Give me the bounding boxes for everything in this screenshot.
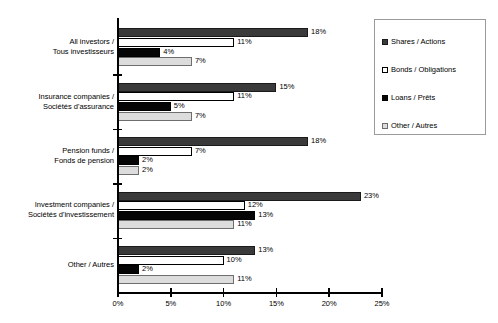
category-label-line: All investors / (53, 37, 114, 47)
bar-1-series-1 (118, 28, 308, 37)
legend-item-1[interactable]: Shares / Actions (382, 37, 445, 46)
legend-swatch-icon (382, 95, 388, 101)
x-axis-tick (381, 288, 383, 297)
x-axis-tick-label: 5% (165, 299, 176, 308)
legend-label: Loans / Prêts (391, 93, 435, 102)
bar-row: 11% (118, 92, 382, 101)
bar-value-label: 12% (248, 200, 263, 210)
bar-value-label: 18% (311, 136, 326, 146)
y-axis-tick (113, 238, 122, 240)
bar-row: 7% (118, 57, 382, 66)
bar-row: 7% (118, 147, 382, 156)
bar-2-series-4 (118, 112, 192, 121)
bar-row: 11% (118, 220, 382, 229)
bar-value-label: 2% (142, 165, 153, 175)
bar-row: 11% (118, 275, 382, 284)
x-axis-line (117, 292, 383, 294)
bar-value-label: 13% (258, 210, 273, 220)
bar-value-label: 13% (258, 245, 273, 255)
category-label-line: Investment companies / (28, 200, 114, 210)
plot-area: 18%11%4%7%15%11%5%7%18%7%2%2%23%12%13%11… (118, 20, 382, 292)
bar-value-label: 11% (237, 219, 251, 229)
category-label-line: Sociétés d'assurance (39, 102, 114, 112)
legend-item-3[interactable]: Loans / Prêts (382, 93, 435, 102)
x-axis-tick-label: 20% (322, 299, 337, 308)
bar-2-series-3 (118, 102, 171, 111)
legend-item-4[interactable]: Other / Autres (382, 121, 437, 130)
bar-row: 7% (118, 112, 382, 121)
legend-swatch-icon (382, 39, 388, 45)
category-label-4: Investment companies /Sociétés d'investi… (28, 200, 114, 220)
category-label-5: Other / Autres (68, 260, 114, 270)
bar-value-label: 2% (142, 155, 153, 165)
bar-3-series-1 (118, 137, 308, 146)
bar-3-series-2 (118, 147, 192, 156)
bar-row: 12% (118, 201, 382, 210)
bar-value-label: 4% (163, 47, 174, 57)
category-label-line: Tous investisseurs (53, 47, 114, 57)
bar-1-series-3 (118, 48, 160, 57)
x-axis-tick (276, 288, 278, 297)
x-axis-tick-label: 25% (374, 299, 389, 308)
bar-4-series-4 (118, 220, 234, 229)
bar-value-label: 7% (195, 111, 206, 121)
x-axis-tick-label: 15% (269, 299, 284, 308)
legend-label: Shares / Actions (391, 37, 445, 46)
bar-value-label: 2% (142, 264, 153, 274)
bar-row: 11% (118, 38, 382, 47)
bar-row: 13% (118, 246, 382, 255)
bar-value-label: 18% (311, 27, 326, 37)
bar-row: 2% (118, 156, 382, 165)
bar-value-label: 23% (364, 191, 379, 201)
bar-value-label: 5% (174, 101, 185, 111)
bar-1-series-2 (118, 38, 234, 47)
bar-value-label: 15% (279, 82, 294, 92)
category-label-2: Insurance companies /Sociétés d'assuranc… (39, 92, 114, 112)
y-axis-tick (113, 129, 122, 131)
category-label-line: Sociétés d'investissement (28, 210, 114, 220)
bar-value-label: 11% (237, 37, 251, 47)
bar-1-series-4 (118, 57, 192, 66)
bar-value-label: 7% (195, 146, 206, 156)
category-label-1: All investors /Tous investisseurs (53, 37, 114, 57)
category-label-line: Insurance companies / (39, 92, 114, 102)
category-label-line: Fonds de pension (54, 156, 114, 166)
bar-row: 4% (118, 48, 382, 57)
bar-5-series-4 (118, 275, 234, 284)
x-axis-tick (328, 288, 330, 297)
x-axis-tick (170, 288, 172, 297)
bar-row: 10% (118, 256, 382, 265)
bar-value-label: 7% (195, 56, 206, 66)
bar-3-series-4 (118, 166, 139, 175)
bar-4-series-3 (118, 211, 255, 220)
legend-swatch-icon (382, 123, 388, 129)
bar-row: 18% (118, 137, 382, 146)
y-axis-tick (113, 183, 122, 185)
bar-value-label: 11% (237, 274, 251, 284)
bar-5-series-2 (118, 256, 224, 265)
bar-4-series-2 (118, 201, 245, 210)
category-label-line: Pension funds / (54, 146, 114, 156)
legend-swatch-icon (382, 67, 388, 73)
x-axis-tick-label: 10% (216, 299, 231, 308)
bar-3-series-3 (118, 156, 139, 165)
legend-label: Bonds / Obligations (391, 65, 456, 74)
grouped-bar-chart: 18%11%4%7%15%11%5%7%18%7%2%2%23%12%13%11… (0, 0, 498, 323)
bar-4-series-1 (118, 192, 361, 201)
category-label-3: Pension funds /Fonds de pension (54, 146, 114, 166)
bar-5-series-3 (118, 265, 139, 274)
bar-2-series-1 (118, 83, 276, 92)
y-axis-line (117, 18, 119, 293)
x-axis-tick (117, 288, 119, 297)
bar-value-label: 10% (227, 255, 242, 265)
bar-row: 2% (118, 166, 382, 175)
category-label-line: Other / Autres (68, 260, 114, 270)
x-axis-tick (223, 288, 225, 297)
legend-item-2[interactable]: Bonds / Obligations (382, 65, 456, 74)
legend-label: Other / Autres (391, 121, 437, 130)
bar-row: 5% (118, 102, 382, 111)
x-axis-tick-label: 0% (113, 299, 124, 308)
y-axis-tick (113, 74, 122, 76)
chart-legend: Shares / ActionsBonds / ObligationsLoans… (374, 19, 486, 135)
bar-value-label: 11% (237, 91, 251, 101)
